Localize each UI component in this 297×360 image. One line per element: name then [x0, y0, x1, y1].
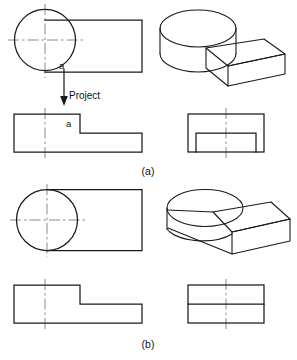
front-view-b: [14, 279, 142, 329]
projection-label: Project: [69, 90, 100, 101]
pictorial-a-block-front-face: [228, 54, 285, 86]
pictorial-b-tangent-blend-upper: [168, 210, 213, 212]
engineering-figure: a Project: [0, 0, 297, 360]
front-view-a-point-label: a: [66, 118, 72, 129]
pictorial-b-cylinder-bottom-arc: [167, 229, 232, 241]
projection-arrow-icon: [60, 96, 68, 106]
pictorial-b-block-front-face: [232, 219, 290, 254]
top-view-b: [10, 184, 142, 257]
panel-a: a Project: [8, 4, 285, 177]
panel-a-caption: (a): [142, 165, 155, 177]
pictorial-b-cylinder-top-ellipse: [167, 190, 243, 227]
front-view-b-stepped-outline: [14, 285, 142, 323]
projection-annotation-a: Project: [60, 69, 100, 106]
front-view-a-stepped-outline: [14, 114, 142, 152]
top-view-a: a: [8, 4, 142, 78]
side-view-b: [188, 279, 264, 329]
panel-b-caption: (b): [142, 338, 155, 350]
pictorial-view-a: [160, 10, 285, 86]
side-view-a: [188, 108, 264, 158]
pictorial-view-b: [167, 190, 290, 255]
top-view-a-point-label: a: [59, 60, 65, 71]
front-view-a: a: [14, 108, 142, 158]
top-view-b-rectangle: [47, 190, 142, 251]
pictorial-a-cylinder-top-ellipse: [160, 10, 236, 47]
panel-b: (b): [10, 184, 290, 350]
figure-canvas: a Project: [0, 0, 297, 360]
